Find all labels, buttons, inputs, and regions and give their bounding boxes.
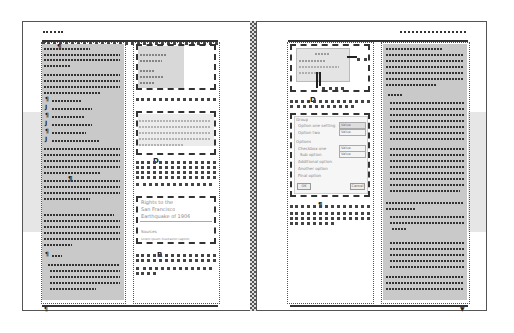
caption-line <box>136 254 216 257</box>
sidebar-line <box>139 142 183 146</box>
dialog-row-label: Option two <box>298 130 338 135</box>
text-line <box>44 190 120 194</box>
list-item-text <box>52 98 82 102</box>
text-line <box>390 158 464 162</box>
text-line <box>390 118 464 122</box>
text-line <box>390 214 464 218</box>
pull-quote-source: Sources <box>141 229 157 234</box>
text-line <box>386 286 464 290</box>
text-line <box>386 46 442 50</box>
list-marker: J <box>45 136 47 142</box>
text-line <box>390 252 464 256</box>
caption-line <box>290 100 370 103</box>
text-line <box>44 212 114 216</box>
caption-line <box>290 222 334 225</box>
callout-dotline <box>357 58 367 61</box>
pull-quote-line: San Francisco <box>141 206 175 212</box>
text-line <box>392 226 406 230</box>
text-line <box>390 182 464 186</box>
right-page-header-mark <box>400 31 466 36</box>
text-line <box>386 82 436 86</box>
text-line <box>386 52 464 56</box>
dialog-row-label: Option one setting <box>298 123 338 128</box>
text-line <box>390 176 464 180</box>
text-line <box>390 246 464 250</box>
text-line <box>386 274 464 278</box>
callout-dotline <box>322 87 344 90</box>
dialog-row-field[interactable]: Value <box>339 122 366 129</box>
right-footer-marker: ▼ <box>460 306 465 312</box>
text-line <box>44 218 120 222</box>
dialog-option[interactable]: Another option <box>298 166 348 171</box>
text-line <box>390 258 464 262</box>
dialog-cancel-button[interactable]: Cancel <box>350 183 365 190</box>
caption-line <box>136 183 212 186</box>
figure-line <box>140 58 162 62</box>
list-item-text <box>52 122 92 126</box>
text-line <box>44 184 120 188</box>
text-line <box>386 58 464 62</box>
text-line <box>50 286 96 290</box>
text-line <box>52 253 62 257</box>
text-line <box>386 206 416 210</box>
text-line <box>390 220 464 224</box>
dialog-option-field[interactable]: Value <box>339 151 366 158</box>
caption-line <box>136 171 216 174</box>
pull-quote-line: Earthquake of 1906 <box>141 213 190 219</box>
dialog-section-title: Options <box>296 139 311 144</box>
text-line <box>44 230 120 234</box>
callout-line <box>319 72 321 86</box>
text-line <box>44 158 120 162</box>
callout-line <box>316 72 318 88</box>
dialog-ok-button[interactable]: OK <box>297 183 311 190</box>
dialog-option[interactable]: Final option <box>298 173 348 178</box>
list-item-text <box>52 114 84 118</box>
list-marker: J <box>45 120 47 126</box>
caption-line <box>136 259 216 262</box>
text-line <box>44 57 120 61</box>
text-line <box>386 200 464 204</box>
screenshot-line <box>299 64 339 68</box>
caption-line <box>136 272 156 275</box>
text-line <box>386 64 464 68</box>
text-line <box>44 242 72 246</box>
text-line <box>386 76 464 80</box>
text-line <box>390 240 464 244</box>
list-marker: ¶ <box>45 112 49 118</box>
sidebar-line <box>139 130 211 134</box>
sidebar-line <box>139 136 211 140</box>
list-item-text <box>52 130 86 134</box>
text-line <box>390 146 464 150</box>
text-line <box>388 92 402 96</box>
text-line <box>44 196 90 200</box>
text-line <box>390 130 464 134</box>
caption-line <box>290 212 370 215</box>
text-line <box>50 268 120 272</box>
text-line <box>50 280 120 284</box>
text-line <box>44 236 120 240</box>
caption-line <box>136 166 216 169</box>
sidebar-line <box>139 124 211 128</box>
text-line <box>44 52 120 56</box>
text-line <box>44 164 120 168</box>
left-page-footer-rule <box>42 305 218 307</box>
dialog-section-title: Group <box>296 117 308 122</box>
figure-line <box>140 74 164 78</box>
screenshot-line <box>299 58 325 62</box>
text-line <box>44 78 120 82</box>
text-line <box>386 70 464 74</box>
dialog-option[interactable]: Sub option <box>300 152 338 157</box>
text-line <box>390 136 464 140</box>
text-line <box>44 90 100 94</box>
dialog-option[interactable]: Checkbox one <box>298 146 338 151</box>
caption-line <box>136 98 216 101</box>
dialog-row-field[interactable]: Value <box>339 129 366 136</box>
list-marker: J <box>45 104 47 110</box>
text-line <box>390 264 464 268</box>
text-line <box>390 188 460 192</box>
list-marker: ¶ <box>45 128 49 134</box>
callout-line <box>347 56 357 58</box>
text-line <box>44 146 120 150</box>
pull-quote-divider <box>140 221 212 222</box>
dialog-option[interactable]: Additional option <box>298 159 348 164</box>
